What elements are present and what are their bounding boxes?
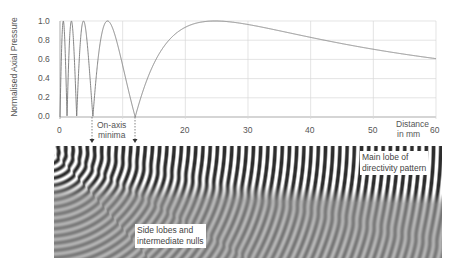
x-tick: 20 [180, 125, 189, 135]
annotation-line: On-axis [97, 120, 126, 130]
x-tick: 60 [430, 125, 439, 135]
callout-line: Main lobe of [362, 152, 426, 163]
y-tick: 0.0 [38, 111, 50, 121]
chart-grid [60, 21, 436, 119]
main-lobe-callout: Main lobe of directivity pattern [360, 151, 428, 175]
x-axis-label-line1: Distance [396, 119, 429, 129]
callout-line: directivity pattern [362, 163, 426, 174]
callout-line: Side lobes and [137, 225, 204, 236]
y-axis-label: Normalised Axial Pressure [9, 15, 19, 119]
y-tick: 0.4 [38, 73, 50, 83]
on-axis-minima-annotation: On-axis minima [97, 120, 126, 140]
annotation-line: minima [97, 130, 126, 140]
callout-line: intermediate nulls [137, 236, 204, 247]
side-lobes-callout: Side lobes and intermediate nulls [135, 224, 206, 248]
x-axis-label-line2: in mm [396, 129, 429, 139]
y-tick: 0.2 [38, 92, 50, 102]
x-tick: 30 [243, 125, 252, 135]
y-tick: 0.8 [38, 35, 50, 45]
x-tick: 0 [57, 125, 62, 135]
x-tick: 40 [305, 125, 314, 135]
x-tick: 50 [368, 125, 377, 135]
x-axis-label: Distance in mm [396, 119, 429, 139]
y-tick: 0.6 [38, 54, 50, 64]
y-tick: 1.0 [38, 16, 50, 26]
